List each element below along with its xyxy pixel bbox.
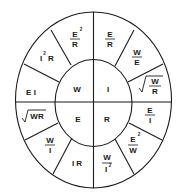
- svg-text:I: I: [40, 54, 42, 63]
- inner-i: I: [107, 85, 109, 94]
- formula-e2-over-w: E 2 W: [128, 132, 141, 155]
- ohms-law-wheel: W I E R E 2 R I 2 R E I WR W I I R W I 2…: [0, 0, 177, 196]
- svg-text:E: E: [147, 106, 153, 115]
- formula-i2r: I 2 R: [40, 51, 54, 63]
- formula-e2-over-r: E 2 R: [70, 27, 83, 49]
- formula-w-over-e: W E: [132, 48, 142, 67]
- svg-text:2: 2: [80, 27, 83, 32]
- svg-text:R: R: [72, 40, 78, 49]
- svg-text:2: 2: [138, 132, 141, 137]
- formula-e-over-i: E I: [145, 106, 155, 125]
- inner-r: R: [104, 115, 110, 124]
- svg-text:E: E: [72, 30, 78, 39]
- svg-text:I: I: [105, 165, 107, 174]
- svg-text:R: R: [48, 54, 54, 63]
- svg-text:R: R: [107, 40, 113, 49]
- svg-text:WR: WR: [30, 112, 44, 121]
- svg-text:W: W: [133, 48, 141, 57]
- inner-w: W: [73, 85, 81, 94]
- svg-text:W: W: [151, 77, 159, 86]
- separator: [115, 139, 134, 174]
- svg-text:R: R: [152, 87, 158, 96]
- formula-ir: I R: [72, 159, 82, 168]
- formula-e-over-r: E R: [105, 30, 115, 49]
- formula-w-over-i2: W I 2: [102, 153, 112, 174]
- svg-text:W: W: [129, 146, 137, 155]
- formula-sqrt-wr: WR: [22, 110, 46, 122]
- separator: [115, 30, 134, 66]
- svg-text:E: E: [134, 58, 140, 67]
- inner-e: E: [75, 115, 81, 124]
- svg-text:W: W: [103, 153, 111, 162]
- svg-text:2: 2: [109, 163, 112, 168]
- svg-text:E: E: [107, 30, 113, 39]
- svg-text:E: E: [130, 135, 136, 144]
- separator: [24, 64, 59, 82]
- separator: [53, 138, 72, 174]
- separator: [51, 30, 71, 65]
- svg-text:2: 2: [43, 51, 46, 56]
- svg-text:I: I: [149, 116, 151, 125]
- formula-ei: E I: [26, 88, 36, 97]
- svg-text:W: W: [46, 136, 54, 145]
- svg-text:I: I: [49, 146, 51, 155]
- formula-sqrt-w-over-r: W R: [139, 76, 163, 96]
- formula-w-over-i: W I: [45, 136, 55, 155]
